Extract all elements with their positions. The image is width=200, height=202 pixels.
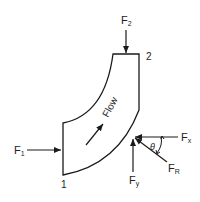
section-1-label: 1 [61,179,67,190]
flow-label: Flow [100,94,120,118]
theta-label: θ [150,142,155,152]
force-fr-label: FR [168,162,180,175]
force-fy-label: Fy [129,174,140,188]
force-f1-label: F1 [14,144,25,157]
force-fx-label: Fx [181,131,192,144]
force-f2-label: F2 [121,14,132,27]
theta-arc [157,137,162,153]
pipe-bend-diagram: F2 2 F1 1 Flow Fx FR Fy θ [0,0,200,202]
flow-arrow [86,124,103,145]
section-2-label: 2 [146,51,152,62]
